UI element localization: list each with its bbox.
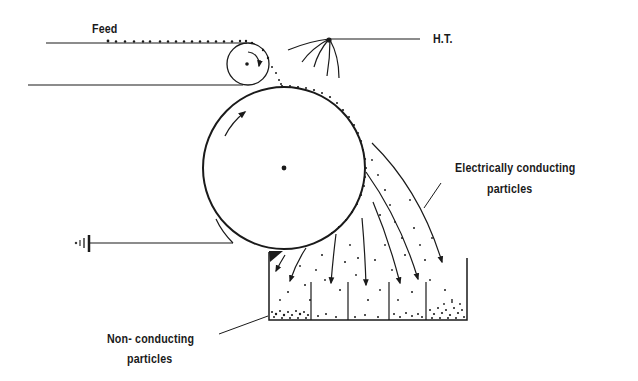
conducting-label-line1: Electrically conducting: [455, 160, 575, 176]
particle-trajectories: [276, 143, 442, 285]
feed-belt: [28, 43, 247, 85]
scraper-brush: [269, 251, 283, 262]
main-drum: [203, 85, 367, 249]
nonconducting-label-line1: Non- conducting: [107, 331, 194, 347]
conducting-leader: [424, 183, 441, 208]
high-tension-electrode: [288, 38, 420, 78]
feed-roller: [227, 43, 269, 85]
ground-connection: [75, 219, 233, 252]
conducting-label-line2: particles: [487, 181, 532, 197]
nonconducting-leader: [219, 316, 268, 334]
feed-label: Feed: [92, 21, 118, 37]
feed-particles: [107, 40, 282, 85]
collection-bins: [269, 252, 467, 320]
nonconducting-label-line2: particles: [127, 351, 172, 367]
ht-label: H.T.: [433, 31, 453, 47]
separator-diagram: [0, 0, 638, 381]
settled-particles: [271, 301, 465, 319]
